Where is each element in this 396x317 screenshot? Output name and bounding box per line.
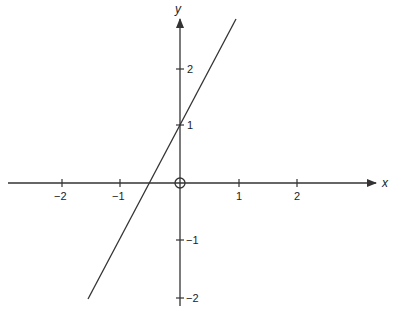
x-tick-label: −1 — [112, 190, 125, 202]
chart-canvas: x y −2 −1 1 2 2 1 −1 −2 — [0, 0, 396, 317]
y-tick-label: 1 — [187, 119, 193, 131]
x-tick-label: 1 — [236, 190, 242, 202]
x-tick-label: 2 — [294, 190, 300, 202]
x-axis-label: x — [381, 176, 389, 190]
x-tick-label: −2 — [54, 190, 67, 202]
y-tick-label: 2 — [187, 63, 193, 75]
y-tick-label: −1 — [186, 234, 199, 246]
series-line — [88, 19, 236, 299]
y-tick-label: −2 — [186, 292, 199, 304]
y-axis-label: y — [174, 2, 182, 16]
